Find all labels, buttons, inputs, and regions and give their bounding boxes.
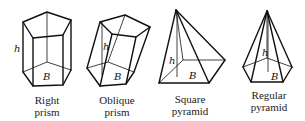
caption-line: prism bbox=[12, 106, 82, 118]
regular-pyramid-figure: h B bbox=[243, 11, 292, 82]
square-pyramid-figure: h B bbox=[159, 10, 225, 83]
oblique-prism-edge bbox=[87, 22, 100, 68]
square-pyramid-caption: Square pyramid bbox=[155, 93, 225, 117]
oblique-prism-edge bbox=[134, 27, 150, 72]
regular-pyramid-base-back bbox=[243, 58, 292, 67]
caption-line: Regular bbox=[234, 89, 304, 101]
caption-line: pyramid bbox=[155, 105, 225, 117]
square-pyramid-edge bbox=[176, 10, 225, 60]
oblique-prism-height-label: h bbox=[103, 41, 109, 52]
regular-pyramid-caption: Regular pyramid bbox=[234, 89, 304, 113]
right-prism-height-label: h bbox=[14, 43, 20, 54]
oblique-prism-caption: Oblique prism bbox=[82, 94, 152, 118]
regular-pyramid-base-front bbox=[243, 67, 292, 82]
caption-line: prism bbox=[82, 106, 152, 118]
square-pyramid-edge bbox=[159, 10, 176, 83]
right-prism-caption: Right prism bbox=[12, 94, 82, 118]
caption-line: Right bbox=[12, 94, 82, 106]
regular-pyramid-base-label: B bbox=[270, 71, 278, 82]
right-prism-base-label: B bbox=[42, 71, 50, 82]
oblique-prism-bottom-back bbox=[87, 62, 134, 72]
square-pyramid-base-label: B bbox=[188, 70, 196, 81]
caption-line: Oblique bbox=[82, 94, 152, 106]
oblique-prism-base-label: B bbox=[113, 71, 121, 82]
right-prism-figure: h B bbox=[14, 12, 71, 86]
oblique-prism-figure: h B bbox=[87, 15, 150, 86]
regular-pyramid-edge bbox=[267, 11, 292, 67]
caption-line: Square bbox=[155, 93, 225, 105]
square-pyramid-height-label: h bbox=[169, 55, 175, 66]
regular-pyramid-edge bbox=[243, 11, 267, 67]
regular-pyramid-height-label: h bbox=[262, 47, 268, 58]
oblique-prism-top-face bbox=[100, 15, 150, 37]
caption-line: pyramid bbox=[234, 101, 304, 113]
